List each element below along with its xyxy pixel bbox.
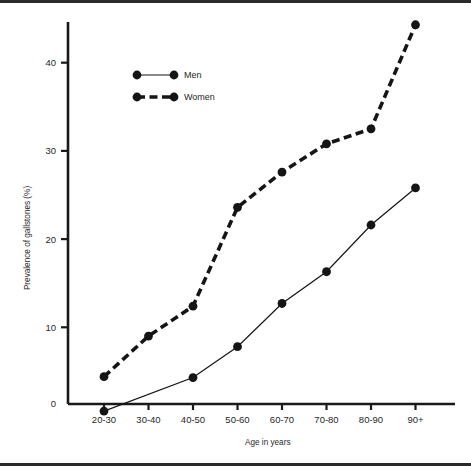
data-point-marker xyxy=(189,302,198,311)
data-point-marker xyxy=(411,184,420,193)
y-axis-tick-label: 20 xyxy=(45,234,56,245)
data-point-marker xyxy=(367,124,376,133)
y-axis-tick-label: 40 xyxy=(45,57,56,68)
y-axis-tick-label: 0 xyxy=(51,398,56,409)
data-point-marker xyxy=(322,267,331,276)
data-point-marker xyxy=(367,221,376,230)
data-point-marker xyxy=(100,372,109,381)
data-point-marker xyxy=(278,299,287,308)
x-axis-tick-label: 40-50 xyxy=(181,414,205,425)
legend-label-women: Women xyxy=(184,92,215,102)
legend-marker-start xyxy=(133,93,142,102)
data-point-marker xyxy=(322,139,331,148)
line-chart-plot: 01020304020-3030-4040-5050-6060-7070-808… xyxy=(0,0,471,466)
x-axis-title: Age in years xyxy=(245,438,291,447)
x-axis-tick-label: 60-70 xyxy=(270,414,294,425)
legend-marker-end xyxy=(170,93,179,102)
data-point-marker xyxy=(233,203,242,212)
data-point-marker xyxy=(411,20,420,29)
legend-marker-end xyxy=(170,71,179,80)
x-axis-tick-label: 70-80 xyxy=(314,414,338,425)
legend-layer: MenWomen xyxy=(133,70,215,102)
ticks-layer xyxy=(61,63,416,410)
x-axis-tick-label: 30-40 xyxy=(136,414,160,425)
data-point-marker xyxy=(278,168,287,177)
data-point-marker xyxy=(144,332,153,341)
x-axis-tick-label: 20-30 xyxy=(92,414,116,425)
data-point-marker xyxy=(233,342,242,351)
y-axis-title: Prevalence of gallstones (%) xyxy=(23,186,32,290)
legend-marker-start xyxy=(133,71,142,80)
data-point-marker xyxy=(189,373,198,382)
y-axis-tick-label: 10 xyxy=(45,322,56,333)
y-axis-tick-label: 30 xyxy=(45,145,56,156)
labels-layer: 01020304020-3030-4040-5050-6060-7070-808… xyxy=(23,57,424,447)
figure-page: 01020304020-3030-4040-5050-6060-7070-808… xyxy=(0,0,471,466)
x-axis-tick-label: 80-90 xyxy=(359,414,383,425)
x-axis-tick-label: 50-60 xyxy=(225,414,249,425)
series-layer xyxy=(100,20,420,415)
x-axis-tick-label: 90+ xyxy=(407,414,424,425)
legend-label-men: Men xyxy=(184,70,202,80)
axes-layer xyxy=(68,22,455,404)
series-line-women xyxy=(104,25,416,377)
